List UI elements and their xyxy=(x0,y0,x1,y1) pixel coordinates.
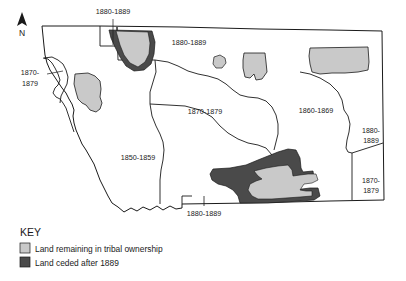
northeast-reservation xyxy=(309,47,369,74)
north-arrow-label: N xyxy=(19,28,25,38)
region-label-1880-1889-east-line2: 1889 xyxy=(363,137,379,144)
key-label-ceded-land: Land ceded after 1889 xyxy=(35,258,119,268)
region-label-1850-1859: 1850-1859 xyxy=(121,153,155,162)
tribal-ownership-swatch xyxy=(20,243,30,253)
region-label-1880-1889-east: 1880- xyxy=(362,127,381,134)
key-title: KEY xyxy=(20,226,41,238)
region-label-1870-1879-west-line2: 1879 xyxy=(22,79,38,88)
key-label-tribal-ownership: Land remaining in tribal ownership xyxy=(35,244,163,254)
ceded-land-swatch xyxy=(20,257,30,267)
region-label-1880-1889-north: 1880-1889 xyxy=(96,7,130,16)
montana-cession-map: N 1880-1889 1880-1889 1870- 1879 1870-18… xyxy=(0,0,406,281)
region-label-1870-1879-east: 1870- xyxy=(362,177,381,184)
region-label-1880-1889-upper: 1880-1889 xyxy=(172,38,206,47)
region-label-1870-1879-west: 1870- xyxy=(21,68,40,77)
region-label-1870-1879-central: 1870-1879 xyxy=(188,107,222,116)
region-label-1860-1869: 1860-1869 xyxy=(299,106,333,115)
region-label-1880-1889-south: 1880-1889 xyxy=(187,209,221,218)
region-label-1870-1879-east-line2: 1879 xyxy=(363,187,379,194)
map-figure: N 1880-1889 1880-1889 1870- 1879 1870-18… xyxy=(0,0,406,281)
north-central-reservation xyxy=(243,53,267,80)
